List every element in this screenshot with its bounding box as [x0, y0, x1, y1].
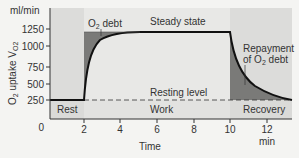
- svg-text:0: 0: [38, 122, 44, 133]
- svg-text:2: 2: [81, 124, 87, 135]
- x-axis-title: Time: [139, 141, 161, 152]
- svg-text:4: 4: [117, 124, 123, 135]
- y-axis-title: O2 uptake VO2: [7, 42, 19, 105]
- o2-debt-label: O2 debt: [88, 18, 122, 30]
- x-ticks: [84, 119, 267, 123]
- steady-state-label: Steady state: [150, 16, 206, 27]
- x-unit-label: min: [259, 136, 275, 147]
- phase-recovery-label: Recovery: [243, 104, 285, 115]
- svg-text:750: 750: [27, 62, 44, 73]
- y-tick-labels: 1250 1000 750 500 250 0: [22, 24, 45, 133]
- y-ticks: [46, 29, 50, 100]
- resting-level-label: Resting level: [150, 87, 207, 98]
- svg-text:500: 500: [27, 79, 44, 90]
- x-tick-labels: 2 4 6 8 10 12: [81, 124, 273, 135]
- svg-text:10: 10: [224, 124, 236, 135]
- phase-work-label: Work: [150, 104, 174, 115]
- svg-text:250: 250: [27, 95, 44, 106]
- repayment-label-line1: Repayment: [243, 43, 294, 54]
- repayment-label-line2: of O2 debt: [243, 54, 288, 66]
- svg-text:1000: 1000: [22, 41, 45, 52]
- phase-rest-label: Rest: [57, 104, 78, 115]
- svg-text:1250: 1250: [22, 24, 45, 35]
- svg-text:8: 8: [191, 124, 197, 135]
- svg-text:12: 12: [261, 124, 273, 135]
- o2-uptake-chart: 1250 1000 750 500 250 0 ml/min O2 uptake…: [0, 0, 299, 158]
- y-unit-label: ml/min: [10, 5, 39, 16]
- svg-text:6: 6: [154, 124, 160, 135]
